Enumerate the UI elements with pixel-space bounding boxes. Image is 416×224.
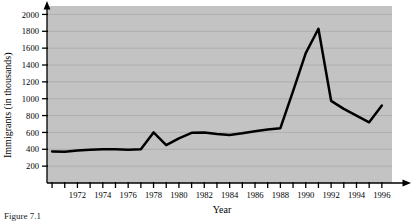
y-tick-label: 1400	[22, 60, 39, 70]
figure-caption-area: Figure 7.1	[0, 206, 416, 224]
x-tick-label: 1992	[323, 190, 340, 200]
plot-area-background	[47, 6, 392, 183]
x-tick-label: 1994	[348, 190, 366, 200]
y-axis-title: Immigrants (in thousands)	[2, 52, 14, 158]
y-tick-label: 1200	[22, 77, 39, 87]
x-tick-label: 1988	[272, 190, 289, 200]
y-axis-arrow	[44, 1, 51, 10]
x-tick-label: 1980	[170, 190, 187, 200]
x-tick-label: 1982	[196, 190, 213, 200]
x-tick-label: 1976	[120, 190, 138, 200]
y-tick-label: 600	[26, 128, 39, 138]
y-tick-label: 200	[26, 161, 39, 171]
x-axis-arrow	[403, 180, 412, 187]
y-tick-label: 800	[26, 111, 39, 121]
x-tick-label: 1996	[373, 190, 391, 200]
x-tick-label: 1972	[69, 190, 86, 200]
x-tick-label: 1978	[145, 190, 162, 200]
x-tick-label: 1984	[221, 190, 239, 200]
figure-caption: Figure 7.1	[4, 211, 41, 221]
figure-container: 200400600800100012001400160018002000 197…	[0, 0, 416, 224]
y-tick-label: 1000	[22, 94, 39, 104]
x-tick-label: 1986	[246, 190, 264, 200]
y-tick-label: 2000	[22, 10, 39, 20]
y-tick-label: 1800	[22, 26, 39, 36]
immigrants-line-chart: 200400600800100012001400160018002000 197…	[0, 0, 416, 224]
x-axis-ticks: 1972197419761978198019821984198619881990…	[52, 182, 391, 200]
x-tick-label: 1974	[94, 190, 112, 200]
x-tick-label: 1990	[297, 190, 314, 200]
y-tick-label: 1600	[22, 43, 39, 53]
y-axis-ticks: 200400600800100012001400160018002000	[22, 10, 48, 172]
y-tick-label: 400	[26, 144, 39, 154]
